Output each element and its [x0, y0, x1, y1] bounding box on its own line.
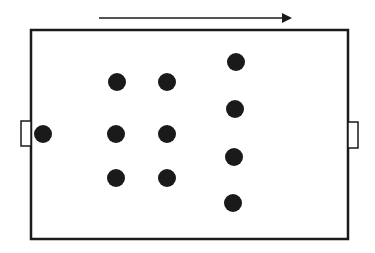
players — [34, 53, 245, 212]
soccer-formation-diagram — [0, 0, 375, 253]
player-defender-3 — [107, 169, 125, 187]
player-midfielder-5 — [158, 125, 176, 143]
player-forward-8 — [226, 100, 244, 118]
player-goalkeeper-0 — [34, 125, 52, 143]
player-forward-7 — [227, 53, 245, 71]
player-forward-9 — [225, 148, 243, 166]
goal-left — [21, 121, 31, 146]
goal-right — [348, 122, 358, 148]
goals — [21, 121, 358, 148]
player-midfielder-6 — [158, 169, 176, 187]
player-defender-2 — [107, 125, 125, 143]
player-midfielder-4 — [158, 73, 176, 91]
player-defender-1 — [108, 73, 126, 91]
field-boundary — [31, 30, 348, 239]
player-forward-10 — [224, 194, 242, 212]
